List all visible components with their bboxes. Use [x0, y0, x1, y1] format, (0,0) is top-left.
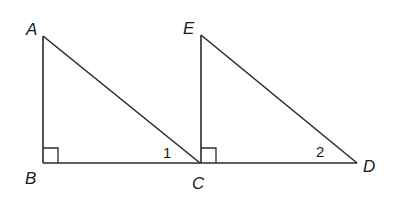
label-e: E: [183, 19, 195, 38]
right-angle-marker-b: [43, 148, 58, 163]
angle-1-label: 1: [163, 144, 171, 161]
angle-2-label: 2: [316, 143, 324, 160]
geometry-diagram: A B C E D 1 2: [0, 0, 401, 207]
label-b: B: [25, 169, 36, 188]
segment-ed: [201, 35, 357, 163]
segment-ac: [43, 36, 200, 163]
label-c: C: [192, 174, 205, 193]
label-a: A: [25, 20, 37, 39]
right-angle-marker-c: [201, 148, 216, 163]
label-d: D: [363, 157, 375, 176]
